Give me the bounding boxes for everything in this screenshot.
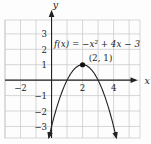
y-tick-label: −2 <box>34 107 47 117</box>
y-tick-label: 2 <box>42 45 47 55</box>
x-axis-label: x <box>145 75 151 86</box>
function-equation-label: f(x) = −x² + 4x − 3 <box>53 39 140 49</box>
quadratic-function-graph: −224321−1−2−3 f(x) = −x² + 4x − 3 (2, 1)… <box>0 0 151 144</box>
grid-lines <box>5 20 140 138</box>
y-tick-label: −3 <box>34 122 47 132</box>
grid-border <box>5 20 140 138</box>
y-axis-label: y <box>52 0 59 10</box>
y-tick-label: 3 <box>42 29 47 39</box>
x-tick-label: 2 <box>80 83 85 93</box>
y-tick-label: 1 <box>42 60 47 70</box>
graph-canvas: −224321−1−2−3 f(x) = −x² + 4x − 3 (2, 1)… <box>0 0 151 144</box>
x-tick-label: −2 <box>14 83 27 93</box>
y-tick-label: −1 <box>34 91 47 101</box>
vertex-dot <box>80 62 85 67</box>
x-tick-label: 4 <box>111 83 117 93</box>
vertex-point-label: (2, 1) <box>89 53 113 63</box>
